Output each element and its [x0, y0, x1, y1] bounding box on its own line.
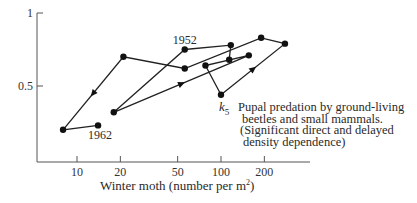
- data-point: [282, 40, 288, 46]
- annotation-line-4: density dependence): [243, 137, 345, 149]
- data-point: [258, 35, 264, 41]
- k-subscript: 5: [225, 107, 230, 117]
- data-point: [202, 62, 208, 68]
- x-axis-label-tail: ): [250, 178, 254, 193]
- k5-symbol: k5: [219, 99, 229, 117]
- x-axis-label-text: Winter moth (number per m: [100, 178, 246, 193]
- y-tick-label: 1: [27, 6, 33, 20]
- x-tick-label: 10: [71, 165, 83, 179]
- x-tick-label: 200: [255, 165, 273, 179]
- data-point: [120, 54, 126, 60]
- year-label: 1952: [173, 33, 197, 47]
- x-tick-label: 50: [172, 165, 184, 179]
- data-point: [182, 46, 188, 52]
- y-tick-label: 0.5: [18, 79, 33, 93]
- data-point: [111, 109, 117, 115]
- x-tick-label: 100: [212, 165, 230, 179]
- arrowhead-icon: [177, 79, 186, 88]
- data-point: [60, 127, 66, 133]
- x-tick-label: 20: [114, 165, 126, 179]
- data-point: [218, 92, 224, 98]
- x-axis-label: Winter moth (number per m2): [100, 178, 254, 194]
- data-point: [226, 57, 232, 63]
- data-point: [228, 42, 234, 48]
- data-point: [182, 65, 188, 71]
- data-point: [246, 52, 252, 58]
- axes: 0.51102050100200: [18, 6, 310, 179]
- year-label: 1962: [88, 128, 112, 142]
- direction-arrow-icon: [177, 79, 186, 88]
